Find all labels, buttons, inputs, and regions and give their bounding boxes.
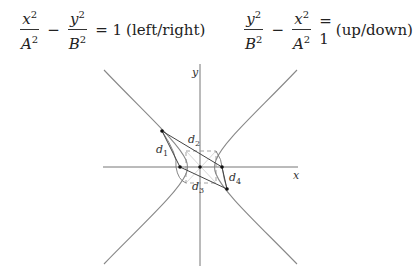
label-d3: d3 bbox=[192, 180, 204, 195]
label-d1: d1 bbox=[156, 143, 168, 158]
point-lower-right bbox=[225, 187, 229, 191]
label-d4: d4 bbox=[229, 171, 241, 186]
label-d2: d2 bbox=[188, 133, 200, 148]
point-left-focus bbox=[178, 165, 182, 169]
y-axis-label: y bbox=[191, 66, 199, 79]
point-upper-left bbox=[160, 129, 164, 133]
x-axis-label: x bbox=[293, 169, 300, 182]
point-center bbox=[198, 165, 202, 169]
point-right-focus bbox=[220, 165, 224, 169]
